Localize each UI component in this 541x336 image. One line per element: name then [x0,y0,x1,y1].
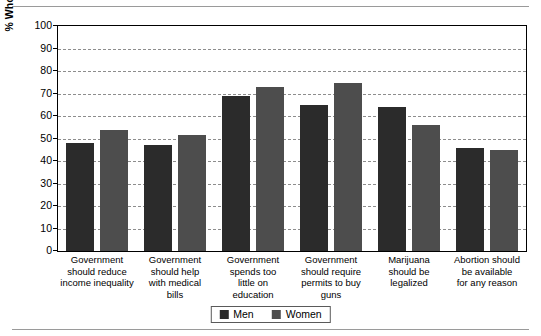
bar-women[interactable] [334,83,362,251]
legend-label: Men [233,309,253,320]
bar-group [448,25,526,251]
x-axis-label-line: should require [294,266,368,278]
x-axis-label-line: Abortion should [450,254,524,266]
x-axis-label-line: education [216,289,290,301]
bar-men[interactable] [456,148,484,252]
bar-group [370,25,448,251]
legend-label: Women [286,309,322,320]
chart-figure: % Who Agree with Survey Statement 100908… [0,0,541,336]
bottom-divider-rule [12,329,529,330]
legend-swatch-icon [219,310,228,319]
x-axis-label-line: with medical [138,277,212,289]
x-axis-category-label: Governmentspends toolittle oneducation [214,254,292,300]
bar-men[interactable] [222,96,250,251]
x-axis-label-line: bills [138,289,212,301]
legend-item[interactable]: Men [219,309,253,320]
y-axis-tick-label: 30 [26,178,52,188]
x-axis-label-line: little on [216,277,290,289]
y-axis-tick-label: 10 [26,223,52,233]
x-axis-label-line: income inequality [60,277,134,289]
x-axis-category-label: Abortion shouldbe availablefor any reaso… [448,254,526,300]
y-axis-tick-label: 50 [26,133,52,143]
x-axis-label-line: Government [138,254,212,266]
x-axis-label-line: for any reason [450,277,524,289]
x-axis-label-line: Government [60,254,134,266]
y-axis-tick-label: 20 [26,200,52,210]
bar-group [214,25,292,251]
top-divider-rule [12,6,529,7]
y-axis-title: % Who Agree with Survey Statement [2,0,16,53]
x-axis-label-line: guns [294,289,368,301]
bar-women[interactable] [100,130,128,252]
x-axis-label-line: be available [450,266,524,278]
x-axis-category-label: Governmentshould helpwith medicalbills [136,254,214,300]
y-axis-tick-label: 60 [26,110,52,120]
x-axis-label-line: Government [216,254,290,266]
y-axis-tick-label: 80 [26,65,52,75]
y-axis-tick-label: 100 [26,20,52,30]
bar-women[interactable] [490,150,518,251]
x-axis-category-label: Marijuanashould belegalized [370,254,448,300]
x-axis-label-line: should reduce [60,266,134,278]
x-axis-category-label: Governmentshould requirepermits to buygu… [292,254,370,300]
x-axis-label-line: permits to buy [294,277,368,289]
legend-item[interactable]: Women [272,309,322,320]
x-axis-label-line: legalized [372,277,446,289]
x-axis-label-line: Government [294,254,368,266]
bar-women[interactable] [178,135,206,251]
bar-groups [58,25,526,251]
chart-legend: MenWomen [210,306,330,323]
y-axis-tick-label: 40 [26,155,52,165]
y-axis-tick-label: 90 [26,43,52,53]
x-axis-label-line: should be [372,266,446,278]
bar-men[interactable] [300,105,328,251]
x-axis-label-line: spends too [216,266,290,278]
x-axis-label-line: Marijuana [372,254,446,266]
x-axis-category-labels: Governmentshould reduceincome inequality… [58,254,526,300]
bar-group [136,25,214,251]
x-axis-category-label: Governmentshould reduceincome inequality [58,254,136,300]
bar-group [292,25,370,251]
y-axis-tick-labels: 1009080706050403020100 [22,25,52,250]
bar-men[interactable] [66,143,94,251]
bar-men[interactable] [144,145,172,251]
bar-women[interactable] [256,87,284,251]
x-axis-label-line: should help [138,266,212,278]
legend-swatch-icon [272,310,281,319]
y-axis-tick-label: 0 [26,245,52,255]
bar-women[interactable] [412,125,440,251]
bar-men[interactable] [378,107,406,251]
y-axis-tick-label: 70 [26,88,52,98]
bar-group [58,25,136,251]
